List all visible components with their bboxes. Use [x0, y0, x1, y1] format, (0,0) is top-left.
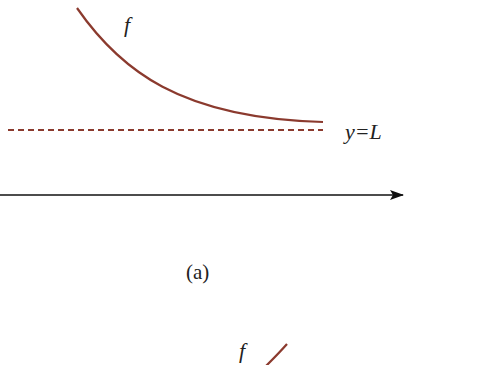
- function-curve-b: [266, 344, 287, 365]
- panel-caption-a: (a): [186, 260, 209, 284]
- asymptote-label: y=L: [343, 119, 382, 144]
- function-label-b: f: [239, 338, 248, 363]
- function-curve-a: [77, 8, 323, 122]
- figure: f y=L (a) f: [0, 0, 492, 365]
- function-label-a: f: [124, 12, 133, 37]
- diagram-canvas: f y=L (a) f: [0, 0, 492, 365]
